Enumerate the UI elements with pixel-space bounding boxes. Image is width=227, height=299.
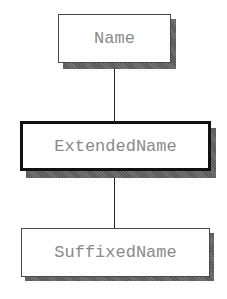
node-suffixedname-label: SuffixedName (54, 243, 176, 262)
connector-extended-to-suffixed (114, 170, 115, 228)
node-suffixedname[interactable]: SuffixedName (21, 228, 210, 277)
node-name-label: Name (94, 29, 135, 48)
node-name[interactable]: Name (58, 14, 171, 63)
node-extendedname[interactable]: ExtendedName (20, 121, 211, 171)
connector-name-to-extended (114, 63, 115, 121)
node-extendedname-label: ExtendedName (54, 137, 176, 156)
